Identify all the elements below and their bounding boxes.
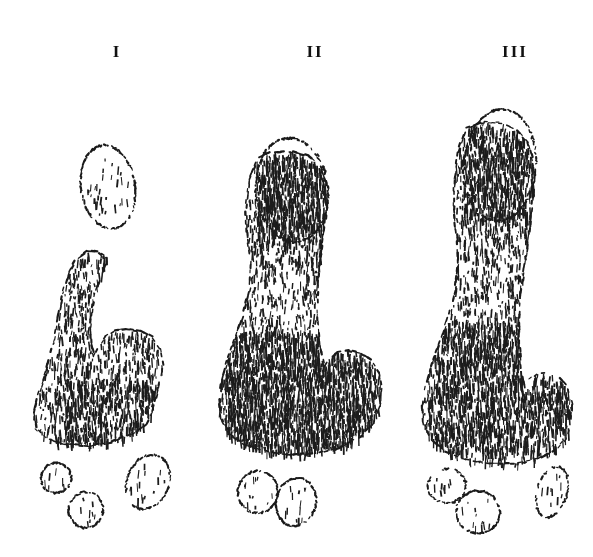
specimen-ii-base-hatching <box>302 442 303 453</box>
specimen-ii-base-hatching <box>347 390 348 402</box>
specimen-i-body-texture <box>54 339 55 342</box>
specimen-iii-apex-hatching <box>474 140 475 147</box>
specimen-iii-body-texture <box>476 280 477 283</box>
specimen-i-body-texture <box>66 442 67 448</box>
specimen-i-body-outline <box>42 384 43 387</box>
specimen-iii-body-outline <box>558 445 560 447</box>
specimen-iii-body-texture <box>474 242 475 251</box>
specimen-ii-base-hatching <box>375 368 376 380</box>
specimen-iii-base-hatching <box>451 425 452 437</box>
specimen-ii-base-hatching <box>279 431 280 436</box>
specimen-ii-base-hatching <box>323 367 324 370</box>
specimen-i-body-texture <box>108 339 109 344</box>
specimen-i-body-texture <box>69 282 70 285</box>
specimen-i-apical-lobe <box>85 159 86 161</box>
specimen-ii-body-texture <box>315 302 316 304</box>
specimen-i-nodule-2-texture <box>88 521 89 527</box>
specimen-i-body-texture <box>155 368 156 376</box>
specimen-i-nodule-3 <box>126 480 128 482</box>
specimen-i-body-outline <box>157 395 158 398</box>
specimen-ii-body-texture <box>257 271 258 278</box>
specimen-ii-base-hatching <box>282 332 283 342</box>
specimen-i-base-hatching <box>77 412 78 418</box>
specimen-ii-base-hatching <box>286 404 287 409</box>
specimen-ii-body-texture <box>317 276 318 281</box>
specimen-iii-apical-lobe-texture <box>505 199 506 208</box>
specimen-ii-body-outline <box>249 176 250 179</box>
specimen-ii-nodule-1 <box>260 471 261 472</box>
specimen-i-apical-lobe-texture <box>100 197 101 205</box>
specimen-i-body-texture <box>58 378 59 380</box>
specimen-iii-nodule-1-texture <box>449 484 450 489</box>
specimen-iii-body-texture <box>471 227 472 235</box>
specimen-i-base-hatching <box>87 402 88 406</box>
specimen-i-body-texture <box>45 424 46 431</box>
specimen-iii-nodule-1 <box>429 492 430 494</box>
specimen-i-nodule-3 <box>137 459 138 461</box>
specimen-i-body-texture <box>81 350 82 353</box>
specimen-ii-body-texture <box>300 317 301 327</box>
specimen-ii-apical-lobe <box>318 154 319 156</box>
specimen-iii-body-texture <box>548 394 549 397</box>
specimen-iii-body-outline <box>459 143 460 146</box>
specimen-iii-base-hatching <box>444 336 445 340</box>
specimen-iii-body-texture <box>519 263 520 270</box>
specimen-iii-base-hatching <box>535 377 536 380</box>
specimen-iii-base-hatching <box>494 338 495 347</box>
specimen-i-base-hatching <box>146 411 147 414</box>
specimen-i-apical-lobe <box>134 198 135 201</box>
specimen-i-nodule-3 <box>158 503 159 505</box>
specimen-ii-apex-hatching <box>265 178 266 185</box>
specimen-i-apical-lobe <box>80 145 136 230</box>
specimen-iii-body-texture <box>525 230 526 239</box>
specimen-iii-base-hatching <box>447 433 448 437</box>
specimen-i-body-texture <box>88 392 89 397</box>
specimen-ii-apical-lobe <box>315 154 317 155</box>
specimen-iii-apical-lobe <box>528 125 529 127</box>
specimen-iii-body-texture <box>510 277 511 284</box>
specimen-ii-base-hatching <box>302 423 303 427</box>
specimen-ii-apical-lobe <box>314 232 316 233</box>
specimen-iii-body-texture <box>543 438 544 445</box>
specimen-i-body-texture <box>71 291 72 294</box>
specimen-iii-base-hatching <box>550 399 551 411</box>
specimen-iii-apical-lobe <box>464 167 465 169</box>
specimen-iii-base-hatching <box>466 383 467 387</box>
specimen-ii-body-texture <box>232 351 233 354</box>
specimen-i-base-hatching <box>103 384 104 390</box>
specimen-ii-nodule-2 <box>316 501 317 503</box>
specimen-i-body-texture <box>56 402 57 405</box>
specimen-ii-base-hatching <box>277 352 278 357</box>
specimen-i-body-outline <box>56 326 57 329</box>
specimen-i-nodule-3 <box>129 470 130 471</box>
specimen-iii-base-hatching <box>569 414 570 425</box>
specimen-i-nodule-3 <box>138 508 139 510</box>
specimen-ii-apex-hatching <box>313 202 314 206</box>
specimen-i-body-outline <box>161 353 162 356</box>
specimen-i-body-texture <box>62 337 63 346</box>
specimen-iii-nodule-1 <box>433 497 434 498</box>
specimen-iii-nodule-3 <box>536 499 537 501</box>
specimen-ii-apex-hatching <box>300 203 301 215</box>
specimen-iii-body-outline <box>563 382 565 385</box>
specimen-iii-apex-hatching <box>513 219 514 226</box>
specimen-ii-apical-lobe <box>269 145 270 147</box>
specimen-i-body-texture <box>117 373 118 380</box>
specimen-i-body-outline <box>163 362 164 365</box>
specimen-i-body-texture <box>94 283 95 287</box>
specimen-iii-apical-lobe-texture <box>506 163 507 167</box>
specimen-i-nodule-2-texture <box>81 507 82 514</box>
specimen-ii-base-hatching <box>234 408 235 414</box>
specimen-iii-apex-hatching <box>477 130 478 137</box>
specimen-iii-base-hatching <box>549 441 550 453</box>
specimen-i-apical-lobe-texture <box>111 175 112 180</box>
specimen-iii-base-hatching <box>557 382 558 387</box>
specimen-ii-body-outline <box>245 299 246 302</box>
specimen-ii-nodule-1 <box>247 511 248 512</box>
specimen-ii-body-outline <box>250 288 251 291</box>
specimen-iii-body-texture <box>487 278 488 284</box>
specimen-ii-base-hatching <box>321 447 322 456</box>
specimen-ii-base-hatching <box>355 424 356 435</box>
specimen-i-base-hatching <box>69 396 70 400</box>
specimen-ii-body-texture <box>263 190 264 200</box>
